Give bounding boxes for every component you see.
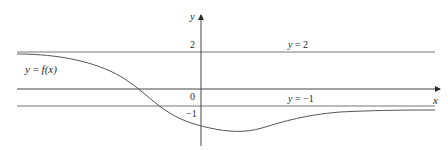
tick-label-0: 0 xyxy=(190,91,195,102)
upper-asymptote-label: y = 2 xyxy=(287,39,308,50)
lower-asymptote-label-eq: = −1 xyxy=(292,93,313,104)
function-curve xyxy=(17,54,435,131)
x-axis-label: x xyxy=(432,94,438,106)
y-axis-label: y xyxy=(189,10,195,22)
tick-label-neg1: −1 xyxy=(186,108,197,119)
tick-label-2: 2 xyxy=(190,39,195,50)
curve-label: y = f(x) xyxy=(24,63,57,76)
upper-asymptote-label-eq: = 2 xyxy=(292,39,308,50)
lower-asymptote-label: y = −1 xyxy=(287,93,314,104)
graph-figure: y x 2 0 −1 y = 2 y = −1 y = f(x) xyxy=(0,0,448,150)
curve-label-x: (x) xyxy=(45,63,58,76)
curve-label-eq: = xyxy=(30,63,42,75)
